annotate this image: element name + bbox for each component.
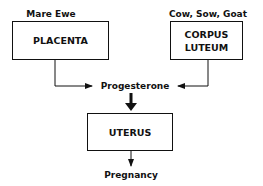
uterus-node: UTERUS — [87, 113, 173, 151]
corpus-luteum-node: CORPUS LUTEUM — [170, 21, 243, 60]
bold-arrowhead-icon — [125, 103, 137, 111]
edge-corpus-luteum-progesterone — [178, 60, 208, 86]
placenta-node: PLACENTA — [12, 21, 109, 60]
placenta-label: PLACENTA — [33, 34, 88, 47]
corpus-luteum-label-line1: CORPUS — [185, 28, 229, 41]
placenta-species-label: Mare Ewe — [26, 9, 75, 19]
progesterone-label: Progesterone — [101, 81, 170, 91]
edge-placenta-progesterone — [55, 60, 92, 86]
corpus-luteum-label-line2: LUTEUM — [185, 41, 229, 54]
pregnancy-label: Pregnancy — [104, 170, 158, 180]
uterus-label: UTERUS — [109, 126, 152, 139]
corpus-luteum-species-label: Cow, Sow, Goat — [169, 9, 247, 19]
